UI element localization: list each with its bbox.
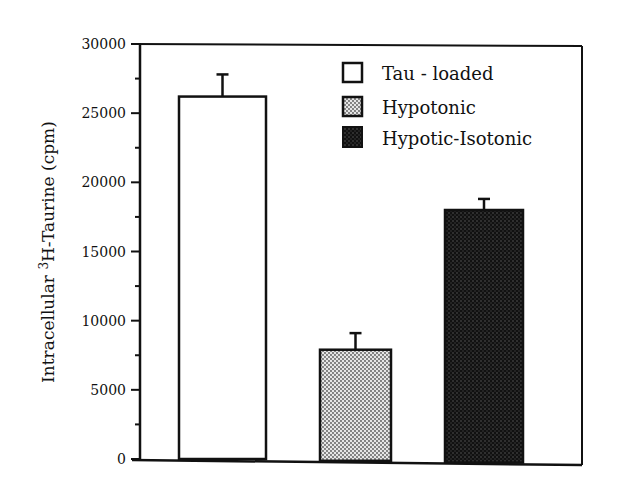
y-tick-label: 25000: [81, 105, 126, 121]
top-frame-line: [132, 44, 582, 46]
bar-group-hypotonic: [320, 333, 391, 461]
bar-group-hypotic-isotonic: [445, 199, 523, 463]
legend-label: Hypotonic: [382, 97, 476, 118]
bar: [445, 210, 523, 463]
legend-item-tau-loaded: Tau - loaded: [343, 63, 493, 84]
y-tick-label: 20000: [81, 174, 126, 190]
y-tick-label: 30000: [81, 36, 126, 52]
legend-item-hypotic-isotonic: Hypotic-Isotonic: [343, 127, 532, 149]
y-axis-label: Intracellular 3H-Taurine (cpm): [37, 121, 58, 383]
legend-swatch-dark-stipple: [343, 127, 362, 147]
y-tick-label: 10000: [81, 313, 126, 329]
y-tick-label: 5000: [90, 382, 126, 398]
legend-label: Hypotic-Isotonic: [382, 128, 532, 149]
bar: [179, 97, 266, 459]
y-axis-label-before: Intracellular: [38, 270, 58, 383]
y-tick-label: 0: [117, 451, 126, 467]
legend-swatch-light-stipple: [343, 97, 362, 116]
bar: [320, 350, 391, 461]
y-axis-label-after: H-Taurine (cpm): [38, 121, 58, 262]
y-tick-label: 15000: [81, 244, 126, 260]
legend: Tau - loaded Hypotonic Hypotic-Isotonic: [343, 63, 532, 149]
bar-group-tau-loaded: [179, 74, 266, 459]
legend-item-hypotonic: Hypotonic: [343, 97, 476, 118]
legend-label: Tau - loaded: [382, 63, 493, 84]
legend-swatch-white: [343, 63, 362, 82]
y-ticks: 050001000015000200002500030000: [81, 36, 140, 467]
bar-chart: 050001000015000200002500030000 Intracell…: [0, 0, 619, 487]
y-axis-label-superscript: 3: [37, 262, 51, 270]
